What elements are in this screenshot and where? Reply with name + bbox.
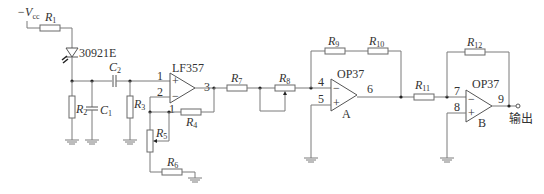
- capacitor-c1: C1: [86, 81, 112, 140]
- resistor-r11: R11: [414, 78, 434, 100]
- svg-text:R3: R3: [133, 97, 145, 112]
- svg-text:C1: C1: [100, 103, 112, 118]
- svg-text:R10: R10: [368, 34, 384, 49]
- svg-text:R5: R5: [155, 126, 167, 141]
- svg-text:7: 7: [454, 84, 460, 98]
- svg-text:1: 1: [169, 102, 175, 116]
- ground-icon: [304, 158, 318, 162]
- resistor-r10: R10: [368, 34, 388, 54]
- output-label: 输出: [509, 111, 533, 126]
- resistor-r7: R7: [227, 71, 247, 91]
- svg-text:+: +: [172, 74, 179, 88]
- svg-text:R6: R6: [166, 155, 178, 170]
- opamp-op37-b: OP37 − + 7 8 9 B: [454, 77, 504, 130]
- svg-text:+: +: [468, 106, 475, 120]
- capacitor-c2: C2: [109, 60, 121, 87]
- svg-text:R4: R4: [185, 115, 197, 130]
- svg-text:4: 4: [318, 75, 324, 89]
- svg-text:A: A: [342, 107, 351, 121]
- svg-text:6: 6: [367, 82, 373, 96]
- resistor-r2: R2: [69, 81, 87, 140]
- resistor-r12: R12: [465, 35, 485, 55]
- ground-icon: [85, 140, 99, 144]
- circuit-diagram: −Vcc R1 30921E R2 C1: [0, 0, 544, 194]
- resistor-r9: R9: [325, 34, 345, 54]
- svg-text:9: 9: [498, 92, 504, 106]
- supply-terminal: −Vcc: [17, 5, 40, 28]
- opamp-op37-a: OP37 − + 4 5 6 A: [318, 67, 373, 121]
- svg-text:−: −: [333, 81, 340, 95]
- svg-text:C2: C2: [109, 60, 121, 75]
- svg-text:R7: R7: [230, 71, 242, 86]
- resistor-r1: R1: [40, 10, 60, 31]
- svg-text:OP37: OP37: [337, 67, 364, 81]
- svg-text:+: +: [333, 96, 340, 110]
- svg-text:−Vcc: −Vcc: [17, 5, 40, 21]
- svg-text:OP37: OP37: [472, 77, 499, 91]
- svg-text:8: 8: [454, 100, 460, 114]
- svg-text:R11: R11: [414, 78, 430, 93]
- svg-text:LF357: LF357: [172, 61, 204, 75]
- svg-text:5: 5: [318, 92, 324, 106]
- svg-text:−: −: [468, 92, 475, 106]
- svg-text:−: −: [172, 89, 179, 103]
- svg-text:R2: R2: [75, 102, 87, 117]
- svg-text:R1: R1: [44, 10, 56, 25]
- svg-text:R8: R8: [278, 71, 290, 86]
- resistor-r3: R3: [127, 81, 145, 140]
- ground-icon: [188, 178, 202, 182]
- svg-text:R9: R9: [327, 34, 339, 49]
- ground-icon: [65, 140, 79, 144]
- resistor-r6: R6: [150, 155, 195, 178]
- svg-text:1: 1: [157, 69, 163, 83]
- output-terminal: [516, 104, 520, 108]
- potentiometer-r5: R5: [147, 112, 169, 172]
- svg-text:3: 3: [204, 80, 210, 94]
- ground-icon: [123, 140, 137, 144]
- svg-text:30921E: 30921E: [79, 46, 116, 60]
- svg-text:B: B: [478, 116, 486, 130]
- resistor-r4: R4: [181, 109, 214, 130]
- svg-text:R12: R12: [466, 35, 482, 50]
- ground-icon: [440, 158, 454, 162]
- potentiometer-r8: R8: [260, 71, 295, 111]
